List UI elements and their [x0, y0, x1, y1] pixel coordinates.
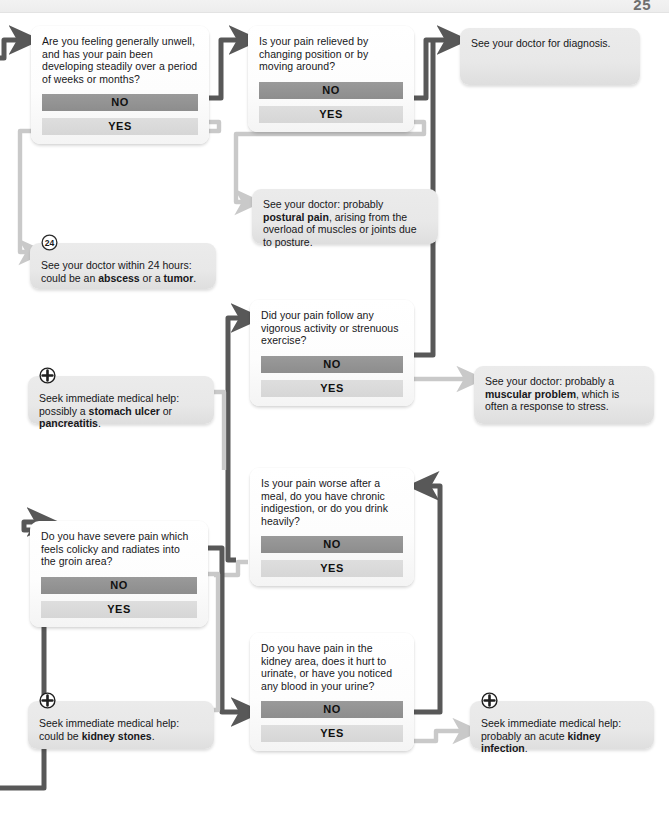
answer-yes-relieved[interactable]: YES — [259, 106, 403, 123]
outcome-abscess-tumor-text: See your doctor within 24 hours: could b… — [41, 259, 205, 284]
outcome-muscular-problem[interactable]: See your doctor: probably a muscular pro… — [474, 366, 654, 424]
answer-group: NO YES — [259, 82, 403, 123]
outcome-kidney-infection[interactable]: Seek immediate medical help: probably an… — [470, 701, 654, 749]
question-unwell-text: Are you feeling generally unwell, and ha… — [42, 35, 198, 85]
question-relieved-text: Is your pain relieved by changing positi… — [259, 35, 403, 73]
question-colicky-pain-text: Do you have severe pain which feels coli… — [41, 530, 197, 568]
question-vigorous-activity[interactable]: Did your pain follow any vigorous activi… — [250, 300, 414, 406]
circled-plus-icon — [39, 692, 56, 709]
decision-chart-page: 25 — [0, 0, 669, 814]
question-after-meal-text: Is your pain worse after a meal, do you … — [261, 477, 403, 527]
outcome-postural-pain-text: See your doctor: probably postural pain,… — [263, 198, 427, 248]
outcome-kidney-stones[interactable]: Seek immediate medical help: could be ki… — [28, 701, 214, 749]
answer-yes-vigorous[interactable]: YES — [261, 380, 403, 397]
answer-no-kidney[interactable]: NO — [261, 701, 403, 718]
outcome-kidney-infection-text: Seek immediate medical help: probably an… — [481, 717, 643, 755]
answer-no-unwell[interactable]: NO — [42, 94, 198, 111]
answer-group: NO YES — [261, 701, 403, 742]
outcome-see-doctor-diagnosis[interactable]: See your doctor for diagnosis. — [460, 28, 640, 85]
answer-group: NO YES — [261, 536, 403, 577]
circled-plus-icon — [481, 692, 498, 709]
outcome-abscess-tumor[interactable]: 24 See your doctor within 24 hours: coul… — [30, 243, 216, 289]
question-colicky-pain[interactable]: Do you have severe pain which feels coli… — [30, 521, 208, 627]
answer-yes-after-meal[interactable]: YES — [261, 560, 403, 577]
question-kidney-area-text: Do you have pain in the kidney area, doe… — [261, 642, 403, 692]
outcome-stomach-ulcer-text: Seek immediate medical help: possibly a … — [39, 392, 203, 430]
question-kidney-area[interactable]: Do you have pain in the kidney area, doe… — [250, 633, 414, 751]
answer-group: NO YES — [41, 577, 197, 618]
outcome-kidney-stones-text: Seek immediate medical help: could be ki… — [39, 717, 203, 742]
svg-text:24: 24 — [45, 238, 55, 248]
answer-yes-unwell[interactable]: YES — [42, 118, 198, 135]
outcome-stomach-ulcer[interactable]: Seek immediate medical help: possibly a … — [28, 376, 214, 424]
question-after-meal[interactable]: Is your pain worse after a meal, do you … — [250, 468, 414, 586]
outcome-see-doctor-diagnosis-text: See your doctor for diagnosis. — [471, 37, 629, 50]
answer-no-after-meal[interactable]: NO — [261, 536, 403, 553]
outcome-muscular-problem-text: See your doctor: probably a muscular pro… — [485, 375, 643, 413]
answer-group: NO YES — [261, 356, 403, 397]
outcome-postural-pain[interactable]: See your doctor: probably postural pain,… — [252, 189, 438, 244]
answer-yes-kidney[interactable]: YES — [261, 725, 403, 742]
question-relieved[interactable]: Is your pain relieved by changing positi… — [248, 26, 414, 132]
answer-no-colicky[interactable]: NO — [41, 577, 197, 594]
question-unwell[interactable]: Are you feeling generally unwell, and ha… — [31, 26, 209, 144]
answer-group: NO YES — [42, 94, 198, 135]
answer-no-relieved[interactable]: NO — [259, 82, 403, 99]
circled-plus-icon — [39, 367, 56, 384]
circled-24-icon: 24 — [41, 234, 58, 251]
question-vigorous-activity-text: Did your pain follow any vigorous activi… — [261, 309, 403, 347]
answer-no-vigorous[interactable]: NO — [261, 356, 403, 373]
answer-yes-colicky[interactable]: YES — [41, 601, 197, 618]
